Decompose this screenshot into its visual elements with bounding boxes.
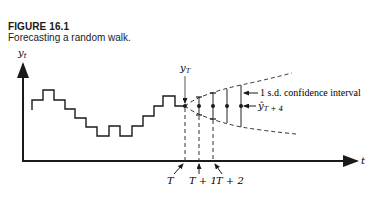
yT-label: yT bbox=[179, 62, 192, 75]
tick-T-plus-1: T + 1 bbox=[189, 175, 217, 186]
time-guides bbox=[185, 108, 213, 161]
forecast-points bbox=[183, 104, 243, 108]
confidence-label: 1 s.d. confidence interval bbox=[260, 87, 361, 98]
y-axis: yt bbox=[17, 47, 27, 161]
confidence-bars bbox=[199, 85, 241, 127]
y-axis-label: yt bbox=[17, 47, 27, 60]
tick-T: T bbox=[167, 175, 175, 186]
x-axis: t bbox=[22, 155, 366, 166]
tick-T-plus-2: T + 2 bbox=[216, 175, 244, 186]
x-axis-label: t bbox=[361, 155, 366, 166]
random-walk-diagram: yt t yT 1 s.d. confidenc bbox=[0, 0, 392, 198]
forecast-label: ŷT + 4 bbox=[257, 100, 283, 113]
random-walk-path bbox=[32, 90, 185, 136]
